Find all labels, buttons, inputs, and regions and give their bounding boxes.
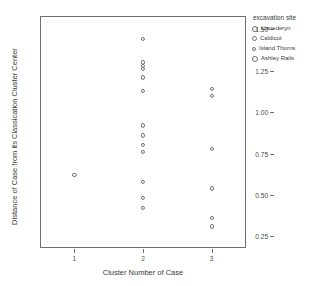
data-point <box>210 216 214 220</box>
data-point <box>141 196 145 200</box>
legend-title: excavation site <box>253 14 314 21</box>
legend-marker-icon <box>252 56 258 62</box>
x-tick-label: 3 <box>210 255 214 262</box>
data-point <box>210 93 214 97</box>
legend-item[interactable]: Caldicot <box>252 34 314 43</box>
y-tick-label: 0.25 <box>255 233 268 240</box>
y-tick-mark <box>270 112 274 113</box>
y-tick-label: 1.25 <box>255 67 268 74</box>
legend-marker-icon <box>252 26 258 32</box>
x-axis-label: Cluster Number of Case <box>40 268 246 277</box>
x-tick-label: 1 <box>73 255 77 262</box>
data-point <box>141 150 145 154</box>
y-axis-label: Distance of Case from its Classication C… <box>10 37 19 237</box>
data-point <box>210 186 214 190</box>
clipped-top-text: · · · · · · · · · · · · · · · · <box>0 0 314 7</box>
y-tick-label: 0.50 <box>255 191 268 198</box>
data-point <box>141 37 145 41</box>
y-tick-mark <box>270 236 274 237</box>
data-point <box>141 123 145 127</box>
data-point <box>141 180 145 184</box>
legend-item[interactable]: Island Thorns <box>252 44 314 53</box>
y-axis: Distance of Case from its Classication C… <box>0 0 40 286</box>
legend-marker-icon <box>252 36 257 41</box>
x-tick-mark <box>212 249 213 253</box>
legend-item-label: Caldicot <box>260 34 282 43</box>
data-point <box>141 88 145 92</box>
data-point <box>210 146 214 150</box>
data-point <box>141 75 145 79</box>
data-point <box>72 173 76 177</box>
data-point <box>210 224 214 228</box>
legend: excavation site LlanederynCaldicotIsland… <box>252 14 314 64</box>
data-point <box>141 67 145 71</box>
y-tick-mark <box>270 195 274 196</box>
legend-items: LlanederynCaldicotIsland ThornsAshley Ra… <box>252 24 314 63</box>
data-point <box>141 133 145 137</box>
plot-panel <box>40 16 246 248</box>
y-tick-label: 0.75 <box>255 150 268 157</box>
x-tick-mark <box>143 249 144 253</box>
legend-item-label: Island Thorns <box>259 44 295 53</box>
legend-item[interactable]: Llanederyn <box>252 24 314 33</box>
data-point <box>141 143 145 147</box>
legend-marker-icon <box>252 47 256 51</box>
x-tick-mark <box>74 249 75 253</box>
scatter-plot-figure: · · · · · · · · · · · · · · · · Distance… <box>0 0 314 286</box>
legend-item[interactable]: Ashley Rails <box>252 54 314 63</box>
y-tick-mark <box>270 71 274 72</box>
y-tick-mark <box>270 154 274 155</box>
legend-item-label: Llanederyn <box>261 24 291 33</box>
legend-item-label: Ashley Rails <box>261 54 294 63</box>
x-tick-label: 2 <box>141 255 145 262</box>
data-point <box>210 87 214 91</box>
y-tick-label: 1.00 <box>255 109 268 116</box>
data-point <box>141 206 145 210</box>
